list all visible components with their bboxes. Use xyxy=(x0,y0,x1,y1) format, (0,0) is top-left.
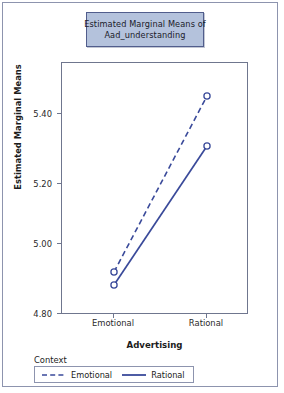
series-rational-point-emotional xyxy=(111,282,117,288)
chart-title-line-2: Aad_understanding xyxy=(104,30,185,41)
series-layer xyxy=(62,63,247,313)
series-rational-line xyxy=(114,146,207,285)
series-svg xyxy=(62,63,247,313)
series-rational xyxy=(111,143,210,288)
legend-label-emotional: Emotional xyxy=(71,370,112,380)
series-emotional-line xyxy=(114,96,207,272)
series-rational-point-rational xyxy=(204,143,210,149)
series-emotional-point-emotional xyxy=(111,269,117,275)
y-tick-label-5-00: 5.00 xyxy=(20,239,52,249)
y-tick-label-5-20: 5.20 xyxy=(20,179,52,189)
legend-label-rational: Rational xyxy=(151,370,185,380)
plot-area xyxy=(61,62,248,314)
chart-title-line-1: Estimated Marginal Means of xyxy=(84,19,206,30)
legend-title: Context xyxy=(34,355,67,365)
chart-title-box: Estimated Marginal Means of Aad_understa… xyxy=(86,12,204,47)
x-tick-label-emotional: Emotional xyxy=(73,318,153,328)
y-tick-label-5-40: 5.40 xyxy=(20,109,52,119)
legend-entry-emotional[interactable]: Emotional xyxy=(41,370,112,380)
x-axis-title: Advertising xyxy=(61,340,248,350)
series-emotional-point-rational xyxy=(204,93,210,99)
series-emotional xyxy=(111,93,210,275)
emmeans-interaction-plot: Estimated Marginal Means of Aad_understa… xyxy=(0,0,284,393)
legend-box: Emotional Rational xyxy=(34,366,194,383)
y-tick-label-4-80: 4.80 xyxy=(20,309,52,319)
legend-swatch-solid-icon xyxy=(121,371,147,379)
legend-swatch-dashed-icon xyxy=(41,371,67,379)
legend-entry-rational[interactable]: Rational xyxy=(121,370,185,380)
x-tick-label-rational: Rational xyxy=(166,318,246,328)
